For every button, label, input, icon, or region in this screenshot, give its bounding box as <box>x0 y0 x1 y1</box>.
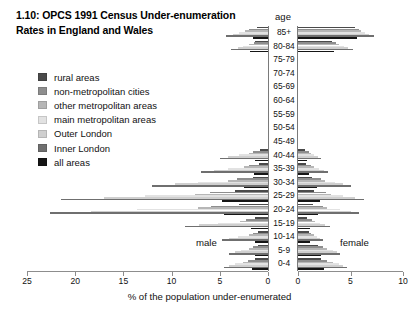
male-x-axis <box>27 271 268 276</box>
male-axis-tick-label: 15 <box>119 276 129 286</box>
male-age-band <box>27 26 268 40</box>
male-label: male <box>196 237 217 248</box>
male-age-band <box>27 203 268 217</box>
female-age-band <box>298 135 403 149</box>
chart-page: 1.10: OPCS 1991 Census Under-enumeration… <box>0 0 419 314</box>
female-bar <box>298 173 309 175</box>
age-band-label: 10-14 <box>269 230 299 244</box>
female-age-band <box>298 189 403 203</box>
female-bar <box>298 187 317 189</box>
female-age-band <box>298 40 403 54</box>
female-bar <box>298 241 310 243</box>
male-bar <box>251 228 268 230</box>
female-age-band <box>298 217 403 231</box>
age-band-label: 15-19 <box>269 217 299 231</box>
female-age-band <box>298 108 403 122</box>
male-age-band <box>27 149 268 163</box>
female-age-band <box>298 257 403 271</box>
age-band-label: 65-69 <box>269 80 299 94</box>
female-bar <box>298 200 320 202</box>
female-age-band <box>298 121 403 135</box>
age-band-label: 80-84 <box>269 40 299 54</box>
male-age-band <box>27 108 268 122</box>
male-bar <box>255 241 268 243</box>
female-age-band <box>298 26 403 40</box>
male-bar <box>224 214 268 216</box>
female-axis-tick-label: 10 <box>398 276 408 286</box>
male-age-band <box>27 257 268 271</box>
male-age-band <box>27 94 268 108</box>
male-age-band <box>27 217 268 231</box>
male-age-band <box>27 189 268 203</box>
age-label-column: 85+80-8475-7970-7465-6960-6455-5950-5445… <box>268 26 298 271</box>
male-bar <box>252 268 268 270</box>
age-band-label: 40-44 <box>269 149 299 163</box>
female-bar <box>298 255 321 257</box>
age-band-label: 55-59 <box>269 108 299 122</box>
age-band-label: 5-9 <box>269 244 299 258</box>
male-age-band <box>27 80 268 94</box>
male-bar <box>253 37 268 39</box>
female-label: female <box>340 237 369 248</box>
male-axis-tick-label: 25 <box>22 276 32 286</box>
male-age-band <box>27 244 268 258</box>
female-bar <box>298 37 357 39</box>
male-bar <box>255 160 268 162</box>
male-age-band <box>27 176 268 190</box>
male-bar <box>222 200 268 202</box>
female-bar <box>298 51 334 53</box>
age-band-label: 75-79 <box>269 53 299 67</box>
female-age-band <box>298 162 403 176</box>
age-band-label: 20-24 <box>269 203 299 217</box>
female-bars-panel <box>298 26 403 271</box>
age-band-label: 35-39 <box>269 162 299 176</box>
male-age-band <box>27 53 268 67</box>
age-band-label: 60-64 <box>269 94 299 108</box>
male-age-band <box>27 135 268 149</box>
age-band-label: 30-34 <box>269 176 299 190</box>
female-age-band <box>298 203 403 217</box>
x-axis-label: % of the population under-enumerated <box>0 291 419 302</box>
female-age-band <box>298 176 403 190</box>
male-age-band <box>27 162 268 176</box>
age-band-label: 85+ <box>269 26 299 40</box>
age-band-label: 70-74 <box>269 67 299 81</box>
female-age-band <box>298 80 403 94</box>
male-axis-tick-label: 20 <box>70 276 80 286</box>
male-bar <box>250 51 268 53</box>
female-axis-tick-label: 0 <box>296 276 301 286</box>
female-bar <box>298 214 318 216</box>
male-age-band <box>27 121 268 135</box>
female-age-band <box>298 53 403 67</box>
male-bars-panel <box>27 26 268 271</box>
male-axis-tick-label: 0 <box>266 276 271 286</box>
plot-area: age 85+80-8475-7970-7465-6960-6455-5950-… <box>0 0 419 314</box>
male-age-band <box>27 67 268 81</box>
male-axis-tick-label: 10 <box>167 276 177 286</box>
age-band-label: 45-49 <box>269 135 299 149</box>
female-bar <box>298 228 310 230</box>
male-axis-tick-label: 5 <box>217 276 222 286</box>
female-bar <box>298 160 307 162</box>
male-bar <box>244 187 268 189</box>
male-bar <box>255 255 268 257</box>
female-bar <box>298 268 324 270</box>
age-band-label: 25-29 <box>269 189 299 203</box>
age-band-label: 0-4 <box>269 257 299 271</box>
male-bar <box>254 173 268 175</box>
male-age-band <box>27 40 268 54</box>
female-age-band <box>298 67 403 81</box>
age-band-label: 50-54 <box>269 121 299 135</box>
female-age-band <box>298 94 403 108</box>
female-axis-tick-label: 5 <box>348 276 353 286</box>
female-age-band <box>298 149 403 163</box>
male-age-band <box>27 230 268 244</box>
age-axis-header: age <box>268 11 298 22</box>
